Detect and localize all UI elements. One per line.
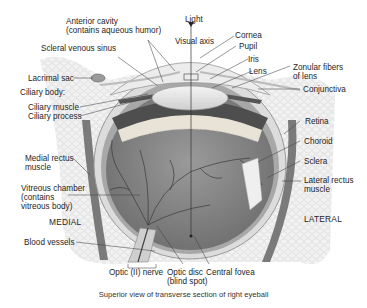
label-central-fovea: Central fovea xyxy=(206,268,255,277)
label-optic-disc: Optic disc (blind spot) xyxy=(167,268,208,286)
lacrimal-sac xyxy=(91,74,105,82)
label-lateral: LATERAL xyxy=(304,215,342,224)
label-cornea: Cornea xyxy=(235,31,262,40)
label-medial: MEDIAL xyxy=(49,218,81,227)
label-zonular-fibers: Zonular fibers of lens xyxy=(293,63,343,81)
central-fovea-dot xyxy=(190,235,193,238)
label-anterior-cavity: Anterior cavity (contains aqueous humor) xyxy=(66,17,161,35)
label-vitreous-chamber: Vitreous chamber (contains vitreous body… xyxy=(21,184,85,211)
label-retina: Retina xyxy=(305,117,329,126)
label-scleral-venous-sinus: Scleral venous sinus xyxy=(41,44,116,53)
lens xyxy=(152,86,228,110)
label-conjunctiva: Conjunctiva xyxy=(303,85,346,94)
label-optic-nerve: Optic (II) nerve xyxy=(109,268,163,277)
eyeball-diagram: Anterior cavity (contains aqueous humor)… xyxy=(0,0,367,308)
label-medial-rectus: Medial rectus muscle xyxy=(25,154,74,172)
label-pupil: Pupil xyxy=(239,42,257,51)
figure-caption: Superior view of transverse section of r… xyxy=(0,290,367,299)
label-visual-axis: Visual axis xyxy=(175,37,214,46)
label-iris: Iris xyxy=(248,55,259,64)
label-ciliary-process: Ciliary process xyxy=(28,112,82,121)
label-lens: Lens xyxy=(249,67,267,76)
label-light: Light xyxy=(185,15,203,24)
label-choroid: Choroid xyxy=(304,137,333,146)
label-lacrimal-sac: Lacrimal sac xyxy=(28,74,74,83)
label-ciliary-muscle: Ciliary muscle xyxy=(28,103,79,112)
label-sclera: Sclera xyxy=(304,157,327,166)
label-lateral-rectus: Lateral rectus muscle xyxy=(304,176,354,194)
label-blood-vessels: Blood vessels xyxy=(24,238,75,247)
label-ciliary-body: Ciliary body: xyxy=(20,88,65,97)
